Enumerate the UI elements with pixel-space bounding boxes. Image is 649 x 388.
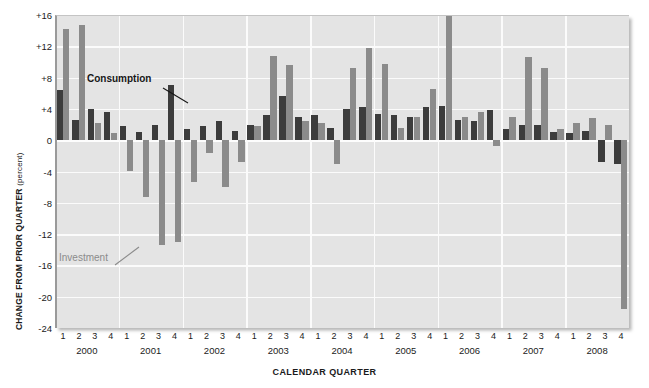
x-axis-quarter-label: 3 — [603, 331, 608, 341]
x-axis-year-label: 2006 — [459, 345, 480, 356]
plot-area: Consumption Investment — [55, 15, 629, 328]
bar-consumption — [216, 121, 222, 140]
x-axis-quarter-label: 2 — [395, 331, 400, 341]
bar-consumption — [327, 128, 333, 141]
bar-consumption — [439, 106, 445, 140]
x-axis-year-label: 2002 — [204, 345, 225, 356]
bar-investment — [493, 140, 499, 145]
bar-consumption — [375, 114, 381, 141]
bar-investment — [63, 29, 69, 140]
x-axis-quarter-label: 2 — [332, 331, 337, 341]
bar-investment — [318, 123, 324, 140]
x-axis-quarter-label: 2 — [268, 331, 273, 341]
bar-investment — [382, 64, 388, 141]
y-axis-tick-label: -24 — [18, 323, 52, 334]
bar-consumption — [247, 125, 253, 141]
y-axis-tick-label: -12 — [18, 229, 52, 240]
x-axis-quarter-label: 1 — [60, 331, 65, 341]
bar-investment — [446, 15, 452, 140]
gridline-horizontal — [55, 172, 629, 174]
x-axis-year-label: 2003 — [268, 345, 289, 356]
bar-investment — [525, 57, 531, 140]
x-axis-quarter-label: 4 — [619, 331, 624, 341]
x-axis-quarter-label: 2 — [204, 331, 209, 341]
bar-consumption — [566, 133, 572, 140]
bar-investment — [605, 125, 611, 141]
bar-consumption — [343, 109, 349, 140]
x-axis-quarter-label: 3 — [92, 331, 97, 341]
chart-figure: CHANGE FROM PRIOR QUARTER (percent) +16+… — [0, 0, 649, 388]
gridline-vertical — [374, 15, 376, 328]
bar-consumption — [200, 126, 206, 140]
x-axis-quarter-label: 4 — [427, 331, 432, 341]
x-axis-quarter-label: 4 — [236, 331, 241, 341]
x-axis-quarter-label: 2 — [140, 331, 145, 341]
bar-consumption — [391, 115, 397, 140]
x-axis-quarter-label: 3 — [284, 331, 289, 341]
y-axis-tick-label: 0 — [18, 135, 52, 146]
y-axis-tick-label: -8 — [18, 197, 52, 208]
bar-consumption — [359, 107, 365, 140]
zero-line — [55, 140, 629, 142]
bar-consumption — [88, 109, 94, 140]
bar-investment — [159, 140, 165, 245]
bar-consumption — [311, 115, 317, 140]
x-axis-title: CALENDAR QUARTER — [0, 367, 649, 377]
bar-investment — [127, 140, 133, 171]
bar-consumption — [232, 131, 238, 140]
bar-consumption — [104, 112, 110, 140]
x-axis-quarter-label: 4 — [555, 331, 560, 341]
x-axis-year-label: 2000 — [76, 345, 97, 356]
bar-consumption — [614, 140, 620, 164]
gridline-vertical — [438, 15, 440, 328]
x-axis-quarter-label: 1 — [379, 331, 384, 341]
bar-investment — [270, 56, 276, 141]
bar-investment — [254, 126, 260, 140]
x-axis-quarter-labels: 123412341234123412341234123412341234 — [55, 331, 629, 345]
gridline-horizontal — [55, 46, 629, 48]
bar-consumption — [487, 110, 493, 140]
bar-consumption — [503, 129, 509, 140]
gridline-horizontal — [55, 234, 629, 236]
annotation-investment: Investment — [59, 252, 108, 263]
x-axis-quarter-label: 1 — [252, 331, 257, 341]
x-axis-quarter-label: 1 — [443, 331, 448, 341]
bar-consumption — [184, 129, 190, 140]
bar-consumption — [168, 85, 174, 140]
y-axis-tick-labels: +16+12+8+40-4-8-12-16-20-24 — [18, 0, 52, 340]
bar-investment — [430, 89, 436, 141]
bar-investment — [509, 117, 515, 140]
bar-consumption — [263, 115, 269, 140]
bar-consumption — [598, 140, 604, 162]
x-axis-quarter-label: 1 — [124, 331, 129, 341]
bar-investment — [462, 117, 468, 140]
bar-consumption — [550, 132, 556, 140]
bar-consumption — [72, 120, 78, 140]
bar-consumption — [295, 117, 301, 140]
gridline-vertical — [246, 15, 248, 328]
bar-investment — [541, 68, 547, 140]
x-axis-quarter-label: 1 — [188, 331, 193, 341]
y-axis-tick-label: +4 — [18, 103, 52, 114]
gridline-horizontal — [55, 203, 629, 205]
y-axis-title-container: CHANGE FROM PRIOR QUARTER (percent) — [0, 0, 16, 340]
x-axis-quarter-label: 4 — [108, 331, 113, 341]
bar-consumption — [423, 107, 429, 140]
y-axis-tick-label: +16 — [18, 10, 52, 21]
x-axis-quarter-label: 1 — [316, 331, 321, 341]
bar-investment — [111, 133, 117, 140]
bar-investment — [478, 112, 484, 140]
bar-investment — [621, 140, 627, 309]
gridline-vertical — [119, 15, 121, 328]
gridline-horizontal — [55, 297, 629, 299]
bar-investment — [350, 68, 356, 140]
bar-investment — [366, 48, 372, 140]
x-axis-quarter-label: 3 — [539, 331, 544, 341]
x-axis-quarter-label: 2 — [587, 331, 592, 341]
x-axis-year-label: 2007 — [523, 345, 544, 356]
x-axis-quarter-label: 2 — [459, 331, 464, 341]
x-axis-quarter-label: 2 — [76, 331, 81, 341]
x-axis-quarter-label: 1 — [507, 331, 512, 341]
bar-consumption — [407, 117, 413, 140]
bar-investment — [573, 123, 579, 140]
